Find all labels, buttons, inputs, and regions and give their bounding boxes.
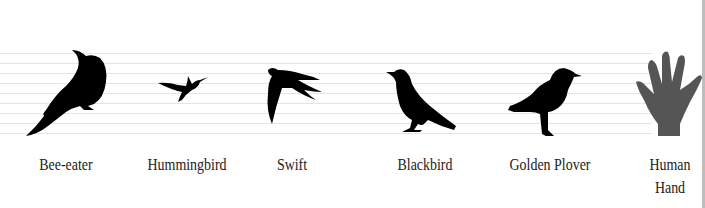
hummingbird-silhouette-icon [158, 74, 210, 104]
bird-size-diagram: Bee-eater Hummingbird Swift Blackbird Go… [0, 0, 705, 208]
label-human: Human [645, 154, 694, 176]
label-bee-eater: Bee-eater [28, 154, 103, 176]
label-hand: Hand [645, 177, 694, 199]
golden-plover-silhouette-icon [506, 64, 586, 142]
swift-silhouette-icon [264, 66, 324, 126]
label-blackbird: Blackbird [391, 154, 458, 176]
label-swift: Swift [267, 154, 316, 176]
human-hand-silhouette-icon [636, 48, 702, 136]
blackbird-silhouette-icon [384, 68, 460, 134]
label-hummingbird: Hummingbird [142, 154, 232, 176]
label-golden-plover: Golden Plover [507, 154, 592, 176]
bee-eater-silhouette-icon [22, 46, 112, 136]
